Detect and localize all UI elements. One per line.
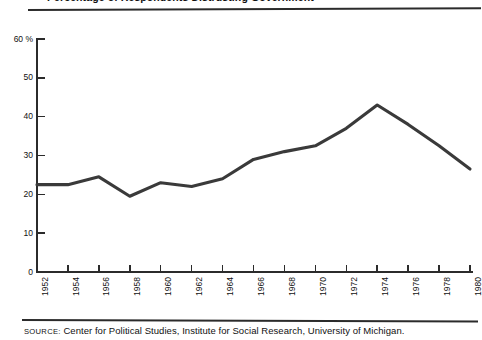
source-label: SOURCE: bbox=[24, 327, 61, 336]
source-note: SOURCE: Center for Political Studies, In… bbox=[24, 325, 404, 336]
chart-plot-area bbox=[0, 0, 482, 340]
source-text: Center for Political Studies, Institute … bbox=[63, 325, 404, 336]
data-series-line bbox=[37, 105, 470, 196]
